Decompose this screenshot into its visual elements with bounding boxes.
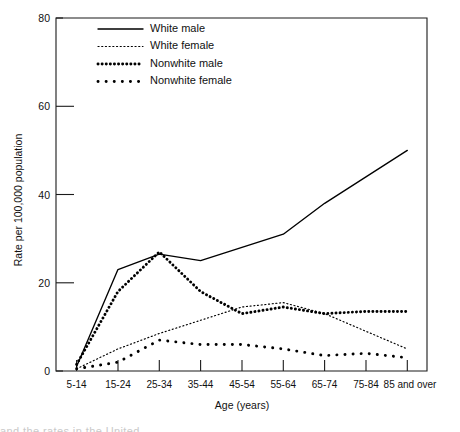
y-tick-label-0: 0 — [44, 365, 50, 377]
legend-label-white-female: White female — [150, 39, 214, 51]
plot-frame — [56, 18, 427, 371]
x-axis-tick-labels: 5-14 15-24 25-34 35-44 45-54 55-64 65-74… — [67, 379, 437, 390]
x-tick-label-3: 35-44 — [188, 379, 214, 390]
y-axis-ticks — [56, 18, 74, 371]
x-tick-label-2: 25-34 — [147, 379, 173, 390]
line-chart: 0 20 40 60 80 Rate per 100,000 populatio… — [0, 0, 460, 432]
y-axis-title: Rate per 100,000 population — [12, 134, 24, 267]
x-axis-ticks — [77, 360, 408, 371]
x-tick-label-4: 45-54 — [229, 379, 255, 390]
x-tick-label-7: 75-84 — [353, 379, 379, 390]
x-tick-label-8: 85 and over — [384, 379, 437, 390]
figure-container: 0 20 40 60 80 Rate per 100,000 populatio… — [0, 0, 460, 432]
x-tick-label-6: 65-74 — [312, 379, 338, 390]
x-tick-label-0: 5-14 — [67, 379, 87, 390]
x-axis-title: Age (years) — [215, 399, 269, 411]
y-tick-label-80: 80 — [38, 12, 50, 24]
series-line-white-male — [77, 150, 408, 366]
legend-label-nonwhite-male: Nonwhite male — [150, 57, 223, 69]
y-tick-label-40: 40 — [38, 189, 50, 201]
legend-label-nonwhite-female: Nonwhite female — [150, 74, 232, 86]
clipped-caption: and the rates in the United — [0, 424, 460, 432]
data-series-group — [77, 150, 408, 368]
series-line-nonwhite-male — [77, 252, 408, 365]
y-axis-tick-labels: 0 20 40 60 80 — [38, 12, 50, 377]
legend: White male White female Nonwhite male No… — [98, 22, 232, 87]
y-tick-label-20: 20 — [38, 277, 50, 289]
x-tick-label-5: 55-64 — [271, 379, 297, 390]
legend-label-white-male: White male — [150, 22, 205, 34]
x-tick-label-1: 15-24 — [105, 379, 131, 390]
y-tick-label-60: 60 — [38, 100, 50, 112]
